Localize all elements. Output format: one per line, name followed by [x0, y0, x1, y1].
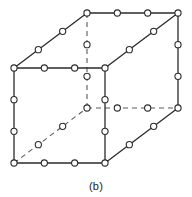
edge-atom	[151, 123, 157, 129]
edge-atom	[114, 105, 120, 111]
corner-atom-front-top-right	[102, 65, 108, 71]
edge-atom	[35, 47, 41, 53]
figure-caption: (b)	[0, 180, 192, 192]
edge-atom	[41, 65, 47, 71]
corner-atom-back-bottom-right	[175, 105, 181, 111]
edge-atom	[126, 47, 132, 53]
edge-atom	[151, 28, 157, 34]
edge-atom	[102, 128, 108, 134]
edge-atom	[126, 142, 132, 148]
edge-atom	[60, 123, 66, 129]
corner-atom-front-top-left	[11, 65, 17, 71]
cube-lattice-diagram	[0, 0, 192, 197]
cube-edge-connect-bottom-right	[105, 108, 178, 163]
solid-edge-group	[14, 13, 178, 163]
edge-atom	[102, 97, 108, 103]
edge-atom	[145, 105, 151, 111]
edge-atom	[72, 160, 78, 166]
cube-edge-connect-bottom-left	[14, 108, 87, 163]
figure-container: (b)	[0, 0, 192, 197]
corner-atom-front-bottom-right	[102, 160, 108, 166]
edge-atom	[11, 97, 17, 103]
cube-edge-connect-top-right	[105, 13, 178, 68]
hidden-edge-group	[14, 13, 178, 163]
corner-atom-front-bottom-left	[11, 160, 17, 166]
edge-atom	[175, 73, 181, 79]
edge-atom	[84, 42, 90, 48]
edge-atom	[145, 10, 151, 16]
corner-atom-back-top-right	[175, 10, 181, 16]
edge-atom	[114, 10, 120, 16]
edge-atom	[72, 65, 78, 71]
edge-atom	[41, 160, 47, 166]
corner-atom-back-top-left	[84, 10, 90, 16]
edge-atom	[60, 28, 66, 34]
edge-atom	[84, 73, 90, 79]
edge-atom	[11, 128, 17, 134]
corner-atom-back-bottom-left	[84, 105, 90, 111]
cube-edge-connect-top-left	[14, 13, 87, 68]
edge-atom	[35, 142, 41, 148]
atom-group	[11, 10, 181, 166]
edge-atom	[175, 42, 181, 48]
